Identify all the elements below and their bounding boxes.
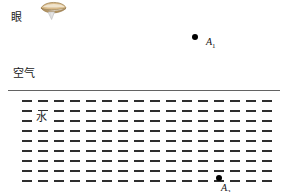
eye-label: 眼: [11, 12, 22, 23]
hatch-dash: [70, 140, 80, 142]
hatch-dash: [150, 130, 160, 132]
hatch-dash: [150, 110, 160, 112]
hatch-dash: [54, 130, 64, 132]
hatch-row: [0, 130, 286, 133]
hatch-dash: [230, 140, 240, 142]
hatch-dash: [262, 140, 272, 142]
hatch-dash: [134, 150, 144, 152]
point-a2-subscript: 2: [227, 188, 231, 192]
hatch-dash: [198, 170, 208, 172]
hatch-row: [0, 150, 286, 153]
hatch-dash: [246, 160, 256, 162]
hatch-dash: [22, 180, 32, 182]
hatch-dash: [54, 100, 64, 102]
hatch-dash: [22, 170, 32, 172]
hatch-dash: [246, 140, 256, 142]
hatch-dash: [214, 130, 224, 132]
hatch-dash: [86, 170, 96, 172]
hatch-dash: [118, 120, 128, 122]
hatch-dash: [118, 160, 128, 162]
hatch-dash: [102, 110, 112, 112]
hatch-dash: [134, 180, 144, 182]
hatch-dash: [38, 170, 48, 172]
hatch-dash: [230, 180, 240, 182]
hatch-dash: [22, 150, 32, 152]
water-surface-line: [8, 90, 280, 91]
hatch-dash: [86, 140, 96, 142]
hatch-dash: [102, 160, 112, 162]
hatch-dash: [150, 120, 160, 122]
hatch-dash: [182, 150, 192, 152]
hatch-dash: [118, 140, 128, 142]
point-a1-dot: [192, 34, 198, 40]
water-region-hatch: [0, 96, 286, 188]
hatch-dash: [198, 110, 208, 112]
hatch-dash: [70, 170, 80, 172]
hatch-row: [0, 170, 286, 173]
hatch-dash: [166, 100, 176, 102]
hatch-dash: [262, 130, 272, 132]
hatch-dash: [262, 100, 272, 102]
hatch-dash: [86, 100, 96, 102]
hatch-row: [0, 160, 286, 163]
hatch-dash: [86, 130, 96, 132]
eye-icon: [39, 1, 67, 20]
hatch-dash: [214, 160, 224, 162]
point-a2-dot: [216, 175, 222, 181]
hatch-dash: [198, 150, 208, 152]
hatch-dash: [118, 130, 128, 132]
hatch-dash: [118, 170, 128, 172]
water-region-label: 水: [34, 111, 49, 124]
hatch-dash: [38, 150, 48, 152]
hatch-dash: [102, 180, 112, 182]
hatch-dash: [166, 160, 176, 162]
hatch-dash: [134, 130, 144, 132]
hatch-dash: [214, 170, 224, 172]
hatch-dash: [166, 130, 176, 132]
hatch-dash: [230, 160, 240, 162]
hatch-dash: [166, 150, 176, 152]
hatch-dash: [54, 180, 64, 182]
hatch-dash: [166, 180, 176, 182]
hatch-dash: [118, 150, 128, 152]
hatch-dash: [198, 140, 208, 142]
hatch-dash: [214, 110, 224, 112]
point-a1-subscript: 1: [212, 42, 216, 50]
hatch-dash: [214, 150, 224, 152]
hatch-dash: [182, 180, 192, 182]
hatch-dash: [102, 120, 112, 122]
hatch-dash: [54, 140, 64, 142]
hatch-dash: [166, 170, 176, 172]
hatch-dash: [22, 160, 32, 162]
hatch-dash: [214, 140, 224, 142]
hatch-dash: [22, 110, 32, 112]
hatch-dash: [198, 100, 208, 102]
hatch-dash: [134, 110, 144, 112]
hatch-dash: [150, 100, 160, 102]
hatch-dash: [182, 160, 192, 162]
hatch-dash: [102, 170, 112, 172]
hatch-dash: [118, 100, 128, 102]
hatch-dash: [134, 120, 144, 122]
air-region-label: 空气: [13, 68, 35, 79]
hatch-dash: [214, 100, 224, 102]
hatch-dash: [102, 130, 112, 132]
hatch-dash: [54, 160, 64, 162]
hatch-dash: [246, 180, 256, 182]
hatch-dash: [38, 130, 48, 132]
hatch-dash: [230, 110, 240, 112]
point-a2-label: A2: [221, 183, 231, 192]
hatch-dash: [54, 120, 64, 122]
hatch-dash: [198, 180, 208, 182]
hatch-dash: [54, 110, 64, 112]
hatch-dash: [198, 130, 208, 132]
hatch-dash: [118, 180, 128, 182]
hatch-dash: [102, 140, 112, 142]
hatch-dash: [150, 170, 160, 172]
hatch-dash: [150, 180, 160, 182]
hatch-dash: [70, 100, 80, 102]
hatch-dash: [214, 120, 224, 122]
hatch-dash: [182, 110, 192, 112]
hatch-dash: [118, 110, 128, 112]
hatch-dash: [70, 120, 80, 122]
